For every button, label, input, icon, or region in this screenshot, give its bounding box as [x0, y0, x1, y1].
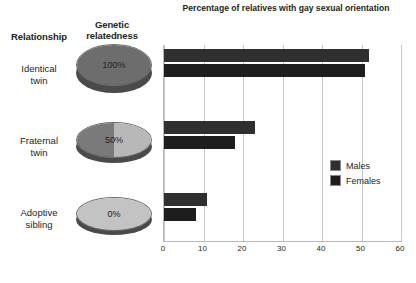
relatedness-disc-identical-twin: 100% — [76, 44, 152, 96]
chart-legend: Males Females — [330, 158, 381, 188]
x-tick-label: 20 — [232, 244, 252, 253]
row-label-line1: Identical — [4, 63, 74, 75]
bar-males-fraternal-twin — [164, 121, 255, 134]
row-label-line1: Fraternal — [4, 135, 74, 147]
relatedness-value-adoptive-sibling: 0% — [76, 197, 152, 231]
row-label-line2: sibling — [4, 219, 74, 231]
bar-males-adoptive-sibling — [164, 193, 207, 206]
relatedness-disc-adoptive-sibling: 0% — [76, 197, 152, 239]
legend-label-females: Females — [346, 176, 381, 186]
x-tick-label: 10 — [193, 244, 213, 253]
x-tick-label: 40 — [311, 244, 331, 253]
x-tick-label: 60 — [390, 244, 410, 253]
plot-area — [163, 45, 402, 242]
bar-females-identical-twin — [164, 64, 365, 77]
bar-females-fraternal-twin — [164, 136, 235, 149]
genetic-relatedness-line1: Genetic — [70, 19, 154, 30]
row-label-line1: Adoptive — [4, 207, 74, 219]
legend-item-males: Males — [330, 158, 381, 173]
x-tick-label: 0 — [153, 244, 173, 253]
column-header-relationship: Relationship — [2, 31, 76, 42]
genetic-relatedness-line2: relatedness — [70, 30, 154, 41]
row-label-line2: twin — [4, 75, 74, 87]
relatedness-disc-fraternal-twin: 50% — [76, 122, 152, 166]
figure-root: Relationship Genetic relatedness Identic… — [0, 0, 416, 283]
x-tick-label: 50 — [351, 244, 371, 253]
row-label-line2: twin — [4, 147, 74, 159]
relatedness-value-identical-twin: 100% — [76, 44, 152, 86]
bar-males-identical-twin — [164, 49, 369, 62]
chart-title: Percentage of relatives with gay sexual … — [160, 3, 412, 13]
relatedness-value-fraternal-twin: 50% — [76, 122, 152, 158]
legend-label-males: Males — [346, 161, 370, 171]
x-tick-label: 30 — [272, 244, 292, 253]
bar-females-adoptive-sibling — [164, 208, 196, 221]
row-label-identical-twin: Identical twin — [4, 63, 74, 87]
row-label-adoptive-sibling: Adoptive sibling — [4, 207, 74, 231]
column-header-genetic-relatedness: Genetic relatedness — [70, 19, 154, 41]
row-label-fraternal-twin: Fraternal twin — [4, 135, 74, 159]
legend-swatch-females — [330, 175, 341, 186]
legend-swatch-males — [330, 160, 341, 171]
gridline — [401, 45, 402, 241]
legend-item-females: Females — [330, 173, 381, 188]
